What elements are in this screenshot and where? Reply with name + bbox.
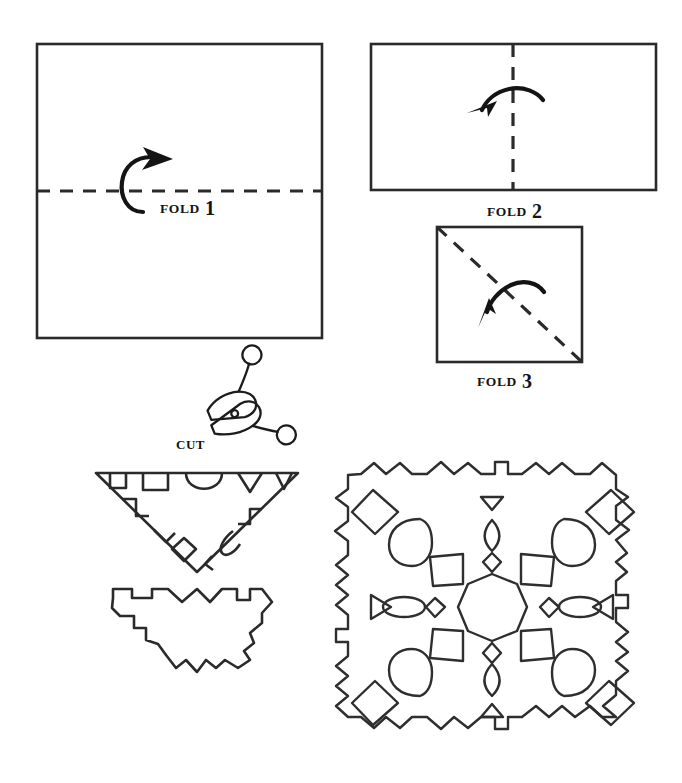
snowflake-center-diamond-left [426,598,445,617]
snowflake-diamond-bottom-left [352,681,398,725]
snowflake-lens-bottom [484,664,499,696]
snowflake-square-bottom-right [521,629,554,661]
snowflake-leaf-top-left [389,519,432,566]
snowflake-center-diamond-bottom [483,643,501,663]
snowflake-square-top-left [430,554,463,586]
snowflake-diamond-top-left [352,490,398,534]
snowflake-triangle-bottom [481,704,503,717]
snowflake-leaf-bottom-right [552,649,595,696]
snowflake-diamond-bottom-right [586,681,634,725]
snowflake-center-diamond-right [540,598,559,617]
snowflake-center-octagon [458,574,527,641]
snowflake-triangle-right [593,595,613,619]
snowflake-lens-top [484,520,499,551]
instruction-diagram-page: FOLD1 FOLD2 FOLD3 [0,0,682,783]
snowflake-leaf-top-right [552,519,595,566]
snowflake-triangle-left [371,595,391,619]
snowflake-square-bottom-left [430,629,463,661]
unfolded-snowflake-panel [0,0,682,783]
snowflake-square-top-right [521,554,554,586]
snowflake-center-diamond-top [483,553,501,572]
snowflake-triangle-top [481,497,503,510]
snowflake-leaf-bottom-left [389,649,432,696]
